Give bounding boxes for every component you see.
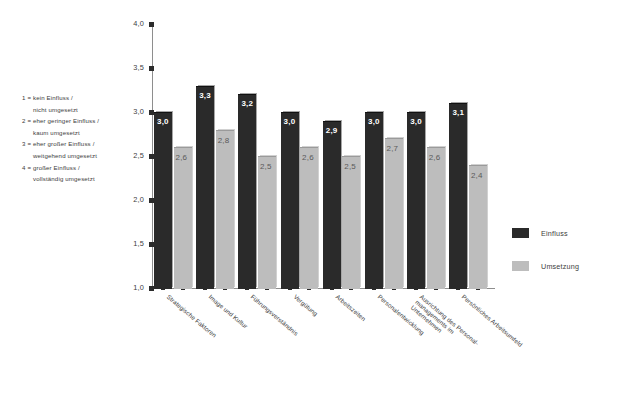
y-axis-tick-label: 2,0 xyxy=(118,195,144,204)
x-axis-category-label: Führungsverständnis xyxy=(250,293,300,337)
bar-umsetzung xyxy=(469,165,487,289)
y-axis-tick xyxy=(149,22,154,27)
bar-value-label: 2,4 xyxy=(471,171,483,180)
bar-value-label: 3,3 xyxy=(199,91,211,100)
bar-value-label: 2,6 xyxy=(302,153,314,162)
bar-umsetzung xyxy=(258,156,276,289)
bar-einfluss xyxy=(281,112,299,289)
y-axis-tick-label: 1,0 xyxy=(118,283,144,292)
bar-value-label: 2,6 xyxy=(429,153,441,162)
bar-einfluss xyxy=(154,112,172,289)
category-label-line: managements im xyxy=(414,299,476,353)
y-axis-tick-label: 3,0 xyxy=(118,107,144,116)
bar-value-label: 2,6 xyxy=(176,153,188,162)
bar-value-label: 2,9 xyxy=(326,126,338,135)
bar-value-label: 2,7 xyxy=(387,144,399,153)
category-label-line: Image und Kultur xyxy=(208,293,250,330)
x-axis-category-label: Arbeitszeiten xyxy=(334,293,367,322)
bar-einfluss xyxy=(407,112,425,289)
legend-swatch xyxy=(512,228,529,238)
bar-value-label: 3,0 xyxy=(410,117,422,126)
legend-label: Einfluss xyxy=(541,229,568,238)
y-axis-tick-label: 3,5 xyxy=(118,63,144,72)
y-axis-tick xyxy=(149,66,154,71)
bar-umsetzung xyxy=(216,130,234,289)
bar-value-label: 2,5 xyxy=(260,162,272,171)
bar-value-label: 3,2 xyxy=(241,99,253,108)
bar-einfluss xyxy=(196,86,214,289)
bar-einfluss xyxy=(365,112,383,289)
legend-swatch xyxy=(512,261,529,271)
bar-value-label: 3,1 xyxy=(452,108,464,117)
bar-umsetzung xyxy=(342,156,360,289)
legend-label: Umsetzung xyxy=(541,262,579,271)
y-axis-tick-label: 4,0 xyxy=(118,19,144,28)
bar-value-label: 3,0 xyxy=(368,117,380,126)
bar-value-label: 2,5 xyxy=(344,162,356,171)
bar-einfluss xyxy=(323,121,341,289)
x-axis-category-label: Image und Kultur xyxy=(208,293,250,330)
bar-value-label: 3,0 xyxy=(284,117,296,126)
x-axis-category-label: Vergütung xyxy=(292,293,319,317)
bar-einfluss xyxy=(238,94,256,289)
bar-umsetzung xyxy=(427,147,445,289)
category-label-line: Vergütung xyxy=(292,293,319,317)
category-label-line: Arbeitszeiten xyxy=(334,293,367,322)
bar-value-label: 3,0 xyxy=(157,117,169,126)
y-axis-tick-label: 1,5 xyxy=(118,239,144,248)
chart-page: 1 = kein Einfluss /nicht umgesetzt2 = eh… xyxy=(0,0,621,397)
y-axis-tick-label: 2,5 xyxy=(118,151,144,160)
bar-umsetzung xyxy=(300,147,318,289)
bar-einfluss xyxy=(449,103,467,289)
bar-umsetzung xyxy=(174,147,192,289)
bar-chart-plot: 1,01,52,02,53,03,54,0 3,02,63,32,83,22,5… xyxy=(0,0,621,397)
category-label-line: Führungsverständnis xyxy=(250,293,300,337)
bar-umsetzung xyxy=(385,138,403,289)
bar-value-label: 2,8 xyxy=(218,136,230,145)
